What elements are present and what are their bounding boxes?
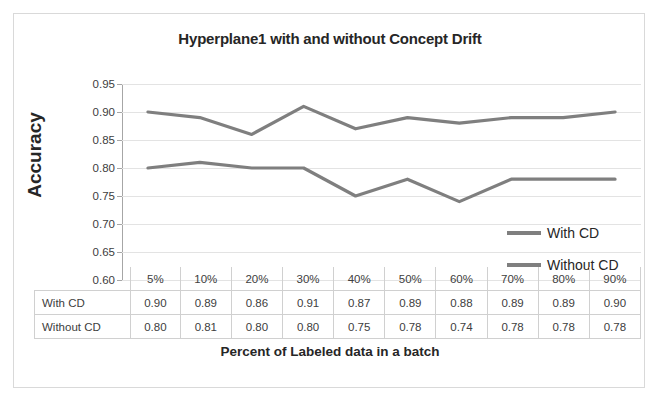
table-column-header: 50% bbox=[385, 267, 436, 291]
table-cell: 0.89 bbox=[487, 291, 538, 315]
chart-data-table: 5%10%20%30%40%50%60%70%80%90% With CD0.9… bbox=[34, 267, 641, 339]
table-column-header: 10% bbox=[180, 267, 231, 291]
chart-title: Hyperplane1 with and without Concept Dri… bbox=[14, 30, 646, 47]
chart-figure: Hyperplane1 with and without Concept Dri… bbox=[13, 13, 645, 388]
table-header: 5%10%20%30%40%50%60%70%80%90% bbox=[35, 267, 641, 291]
table-column-header: 60% bbox=[436, 267, 487, 291]
table-cell: 0.78 bbox=[385, 315, 436, 339]
table-cell: 0.91 bbox=[283, 291, 334, 315]
table-cell: 0.87 bbox=[334, 291, 385, 315]
table-column-header: 40% bbox=[334, 267, 385, 291]
table-cell: 0.90 bbox=[131, 291, 181, 315]
table-body: With CD0.900.890.860.910.870.890.880.890… bbox=[35, 291, 641, 339]
table-cell: 0.75 bbox=[334, 315, 385, 339]
table-cell: 0.88 bbox=[436, 291, 487, 315]
table-cell: 0.78 bbox=[589, 315, 640, 339]
y-axis-title: Accuracy bbox=[24, 85, 46, 225]
plot-area: 0.950.900.850.800.750.700.650.60 With CD… bbox=[122, 84, 641, 280]
y-tick-label: 0.70 bbox=[93, 218, 115, 230]
table-cell: 0.86 bbox=[231, 291, 282, 315]
table-column-header: 20% bbox=[231, 267, 282, 291]
table-cell: 0.80 bbox=[231, 315, 282, 339]
table-row-label: Without CD bbox=[35, 315, 131, 339]
table-cell: 0.80 bbox=[283, 315, 334, 339]
table-cell: 0.78 bbox=[487, 315, 538, 339]
table-cell: 0.89 bbox=[180, 291, 231, 315]
table-cell: 0.89 bbox=[385, 291, 436, 315]
table-cell: 0.89 bbox=[538, 291, 589, 315]
legend-label-with-cd: With CD bbox=[547, 225, 599, 241]
table-column-header: 30% bbox=[283, 267, 334, 291]
table-column-header: 70% bbox=[487, 267, 538, 291]
y-tick-label: 0.85 bbox=[93, 134, 115, 146]
table-corner-cell bbox=[35, 267, 131, 291]
table-row: Without CD0.800.810.800.800.750.780.740.… bbox=[35, 315, 641, 339]
table-row-label: With CD bbox=[35, 291, 131, 315]
table-column-header: 90% bbox=[589, 267, 640, 291]
table-cell: 0.74 bbox=[436, 315, 487, 339]
table-cell: 0.90 bbox=[589, 291, 640, 315]
table-column-header: 5% bbox=[131, 267, 181, 291]
table-cell: 0.78 bbox=[538, 315, 589, 339]
legend-item-with-cd: With CD bbox=[507, 217, 641, 249]
table-cell: 0.80 bbox=[131, 315, 181, 339]
y-tick-label: 0.95 bbox=[93, 78, 115, 90]
x-axis-title: Percent of Labeled data in a batch bbox=[14, 344, 646, 359]
table-header-row: 5%10%20%30%40%50%60%70%80%90% bbox=[35, 267, 641, 291]
table-row: With CD0.900.890.860.910.870.890.880.890… bbox=[35, 291, 641, 315]
y-tick-label: 0.75 bbox=[93, 190, 115, 202]
table-column-header: 80% bbox=[538, 267, 589, 291]
y-tick-label: 0.65 bbox=[93, 246, 115, 258]
series-line-without-cd bbox=[148, 162, 615, 201]
y-tick-label: 0.90 bbox=[93, 106, 115, 118]
legend-swatch-with-cd bbox=[507, 231, 541, 235]
y-tick-label: 0.80 bbox=[93, 162, 115, 174]
table-cell: 0.81 bbox=[180, 315, 231, 339]
series-line-with-cd bbox=[148, 106, 615, 134]
